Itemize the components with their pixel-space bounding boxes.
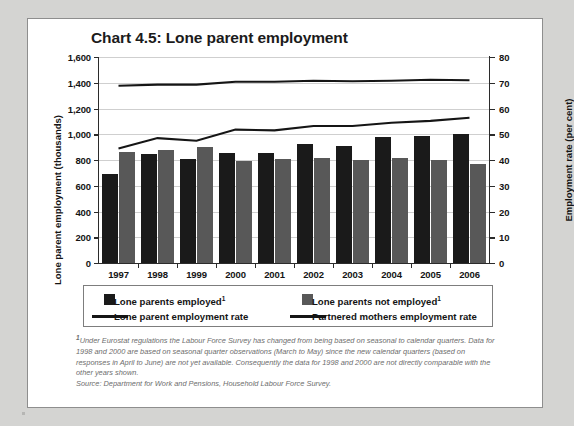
y-axis-label-left: 400	[39, 206, 91, 217]
y-axis-label-right: 70	[499, 77, 539, 88]
chart-title: Chart 4.5: Lone parent employment	[91, 29, 348, 47]
y-axis-tick-left	[94, 160, 99, 161]
y-axis-tick-right	[489, 83, 495, 84]
chart-source: Source: Department for Work and Pensions…	[76, 379, 496, 390]
y-axis-tick-right	[489, 186, 495, 187]
x-axis-label: 2000	[225, 269, 246, 280]
y-axis-label-left: 600	[39, 180, 91, 191]
x-axis-label: 1998	[147, 269, 168, 280]
y-axis-tick-right	[489, 134, 495, 135]
y-axis-tick-left	[94, 212, 99, 213]
y-axis-tick-left	[94, 109, 99, 110]
y-axis-tick-left	[94, 263, 99, 264]
y-axis-tick-left	[94, 186, 99, 187]
y-axis-label-right: 20	[499, 206, 539, 217]
y-axis-label-right: 80	[499, 52, 539, 63]
y-axis-title-right: Employment rate (per cent)	[563, 57, 574, 263]
x-axis-tick	[294, 263, 295, 268]
page-corner-mark	[22, 412, 25, 415]
y-axis-tick-right	[489, 109, 495, 110]
legend-label: Partnered mothers employment rate	[312, 311, 477, 322]
plot-area: Lone parent employment (thousands) Emplo…	[98, 57, 489, 264]
y-axis-label-left: 1,200	[39, 103, 91, 114]
y-axis-label-left: 0	[39, 258, 91, 269]
x-axis-tick	[138, 263, 139, 268]
y-axis-label-right: 60	[499, 103, 539, 114]
y-axis-tick-right	[489, 160, 495, 161]
chart-legend: Lone parents employed1Lone parents not e…	[83, 285, 493, 327]
x-axis-label: 1999	[186, 269, 207, 280]
y-axis-label-right: 30	[499, 180, 539, 191]
y-axis-label-left: 800	[39, 155, 91, 166]
chart-footnote: 1Under Eurostat regulations the Labour F…	[76, 333, 496, 379]
x-axis-label: 1997	[108, 269, 129, 280]
y-axis-tick-right	[489, 237, 495, 238]
y-axis-tick-left	[94, 134, 99, 135]
y-axis-label-left: 1,000	[39, 129, 91, 140]
legend-footnote-marker: 1	[222, 295, 226, 302]
y-axis-tick-right	[489, 57, 495, 58]
legend-footnote-marker: 1	[437, 295, 441, 302]
legend-label: Lone parent employment rate	[114, 311, 248, 322]
y-axis-tick-left	[94, 237, 99, 238]
y-axis-tick-right	[489, 263, 495, 264]
y-axis-label-right: 0	[499, 258, 539, 269]
x-axis-label: 2004	[381, 269, 402, 280]
y-axis-label-left: 1,600	[39, 52, 91, 63]
y-axis-tick-right	[489, 212, 495, 213]
x-axis-label: 2002	[303, 269, 324, 280]
footnote-text: Under Eurostat regulations the Labour Fo…	[76, 336, 495, 377]
y-axis-label-right: 10	[499, 232, 539, 243]
x-axis-tick	[333, 263, 334, 268]
line-partnered-mothers-rate	[119, 80, 470, 86]
x-axis-tick	[411, 263, 412, 268]
x-axis-label: 2006	[459, 269, 480, 280]
y-axis-label-left: 200	[39, 232, 91, 243]
y-axis-label-right: 40	[499, 155, 539, 166]
y-axis-label-left: 1,400	[39, 77, 91, 88]
x-axis-tick	[372, 263, 373, 268]
x-axis-label: 2003	[342, 269, 363, 280]
y-axis-tick-left	[94, 57, 99, 58]
x-axis-tick	[177, 263, 178, 268]
legend-label: Lone parents not employed1	[312, 295, 441, 307]
x-axis-label: 2001	[264, 269, 285, 280]
y-axis-label-right: 50	[499, 129, 539, 140]
chart-card: Chart 4.5: Lone parent employment Lone p…	[27, 18, 543, 408]
x-axis-tick	[255, 263, 256, 268]
x-axis-tick	[450, 263, 451, 268]
line-series-layer	[99, 57, 489, 263]
legend-label: Lone parents employed1	[114, 295, 225, 307]
x-axis-tick	[216, 263, 217, 268]
y-axis-tick-left	[94, 83, 99, 84]
line-lone-parent-rate	[119, 118, 470, 149]
x-axis-label: 2005	[420, 269, 441, 280]
